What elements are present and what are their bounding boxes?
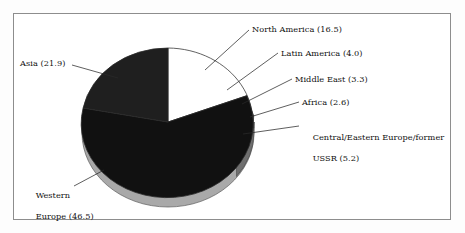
slice-label-central-eastern-europe: Central/Eastern Europe/former USSR (5.2) (302, 121, 444, 174)
leader-line-middle-east (242, 79, 292, 104)
slice-label-central-eastern-europe-line2: USSR (5.2) (313, 153, 360, 163)
leader-line-north-america (205, 30, 249, 70)
leader-line-latin-america (227, 53, 278, 90)
leader-line-africa (250, 102, 299, 117)
chart-figure: North America (16.5) Latin America (4.0)… (0, 0, 465, 233)
slice-label-asia: Asia (21.9) (20, 58, 65, 69)
slice-label-north-america: North America (16.5) (252, 24, 342, 35)
slice-label-central-eastern-europe-line1: Central/Eastern Europe/former (313, 132, 445, 142)
slice-label-western-europe-line2: Europe (46.5) (36, 211, 94, 221)
slice-label-latin-america: Latin America (4.0) (281, 48, 363, 59)
slice-label-western-europe: Western Europe (46.5) (25, 179, 94, 232)
slice-label-middle-east: Middle East (3.3) (295, 74, 368, 85)
slice-label-africa: Africa (2.6) (302, 97, 349, 108)
slice-label-western-europe-line1: Western (36, 190, 70, 200)
pie-slices (81, 48, 254, 198)
